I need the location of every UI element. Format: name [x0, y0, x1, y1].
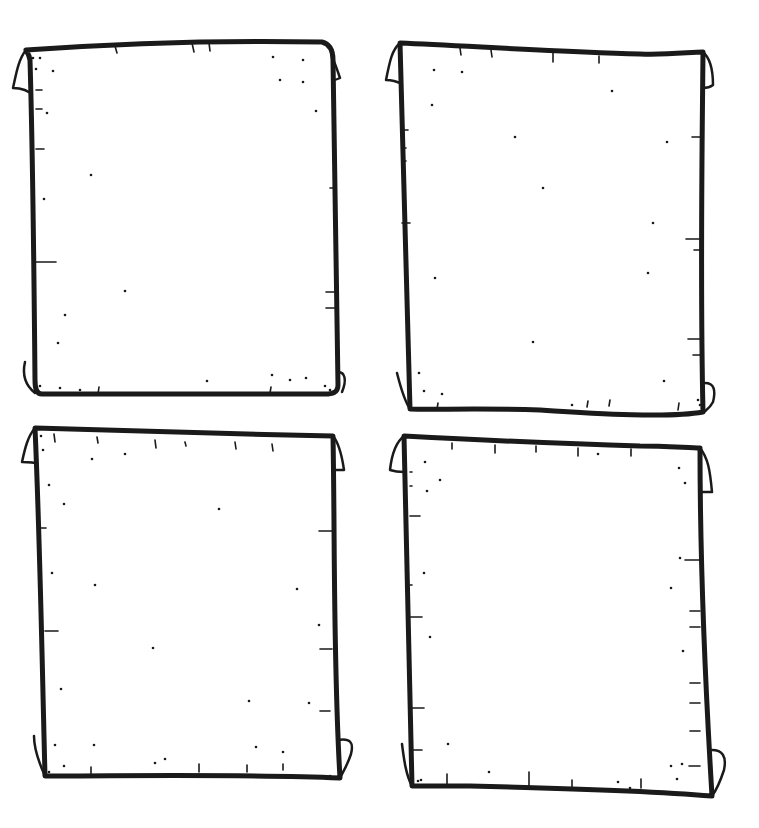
paper-speck [652, 222, 655, 225]
paper-speck [305, 377, 308, 380]
paper-speck [670, 587, 673, 590]
paper-speck [48, 484, 51, 487]
paper-speck [424, 461, 427, 464]
paper-speck [597, 453, 600, 456]
paper-speck [681, 763, 684, 766]
scroll-paper [26, 41, 338, 394]
paper-speck [447, 743, 450, 746]
paper-speck [676, 778, 679, 781]
paper-speck [271, 374, 274, 377]
scroll-bottom-right [390, 436, 725, 796]
paper-speck [59, 387, 62, 390]
scroll-paper [404, 436, 712, 796]
scroll-grid [0, 0, 759, 828]
edge-tick [609, 400, 610, 406]
scroll-illustration [0, 0, 759, 828]
paper-speck [124, 453, 127, 456]
paper-speck [434, 277, 437, 280]
paper-speck [52, 70, 55, 73]
paper-speck [218, 508, 221, 511]
paper-speck [39, 57, 42, 60]
edge-tick [272, 444, 273, 451]
scroll-top-left [13, 41, 345, 394]
paper-speck [571, 404, 574, 407]
paper-speck [272, 56, 275, 59]
paper-speck [699, 404, 702, 407]
paper-speck [318, 624, 321, 627]
scroll-bottom-left [22, 428, 352, 778]
edge-tick [185, 442, 186, 446]
paper-speck [255, 746, 258, 749]
edge-tick [678, 403, 679, 410]
paper-speck [282, 751, 285, 754]
edge-tick [98, 387, 99, 394]
paper-speck [32, 57, 35, 60]
edge-tick [209, 43, 210, 51]
paper-speck [666, 141, 669, 144]
paper-speck [79, 389, 82, 392]
paper-speck [417, 780, 420, 783]
edge-tick [491, 50, 492, 57]
paper-speck [289, 379, 292, 382]
edge-tick [587, 401, 588, 407]
paper-speck [684, 482, 687, 485]
paper-speck [682, 650, 685, 653]
paper-speck [43, 198, 46, 201]
scroll-paper [35, 428, 340, 778]
edge-tick [235, 442, 236, 449]
paper-speck [248, 700, 251, 703]
edge-tick [437, 403, 438, 409]
paper-speck [329, 775, 332, 778]
paper-speck [54, 744, 57, 747]
paper-speck [154, 762, 157, 765]
paper-speck [308, 702, 311, 705]
edge-tick [97, 437, 98, 443]
paper-speck [302, 81, 305, 84]
paper-speck [152, 647, 155, 650]
paper-speck [40, 435, 43, 438]
paper-speck [426, 490, 429, 493]
paper-speck [48, 771, 51, 774]
paper-speck [647, 272, 650, 275]
paper-speck [164, 758, 167, 761]
paper-speck [63, 765, 66, 768]
paper-speck [42, 449, 45, 452]
paper-speck [678, 467, 681, 470]
paper-speck [124, 290, 127, 293]
edge-tick [54, 434, 55, 442]
paper-speck [433, 69, 436, 72]
paper-speck [423, 390, 426, 393]
paper-speck [39, 385, 42, 388]
edge-tick [155, 440, 156, 448]
paper-speck [439, 479, 442, 482]
paper-speck [63, 503, 66, 506]
paper-speck [206, 380, 209, 383]
scroll-curl [704, 383, 714, 412]
paper-speck [315, 110, 318, 113]
paper-speck [542, 187, 545, 190]
paper-speck [57, 342, 60, 345]
paper-speck [51, 572, 54, 575]
paper-speck [420, 779, 423, 782]
paper-speck [629, 787, 632, 790]
paper-speck [35, 68, 38, 71]
paper-speck [663, 380, 666, 383]
paper-speck [461, 71, 464, 74]
edge-tick [460, 48, 461, 55]
paper-speck [679, 557, 682, 560]
paper-speck [418, 372, 421, 375]
paper-speck [94, 584, 97, 587]
paper-speck [60, 688, 63, 691]
paper-speck [324, 385, 327, 388]
scroll-top-right [386, 43, 714, 415]
paper-speck [90, 174, 93, 177]
paper-speck [423, 572, 426, 575]
paper-speck [488, 771, 491, 774]
paper-speck [514, 136, 517, 139]
paper-speck [441, 393, 444, 396]
paper-speck [431, 104, 434, 107]
paper-speck [611, 90, 614, 93]
paper-speck [617, 781, 620, 784]
paper-speck [296, 588, 299, 591]
paper-speck [93, 744, 96, 747]
